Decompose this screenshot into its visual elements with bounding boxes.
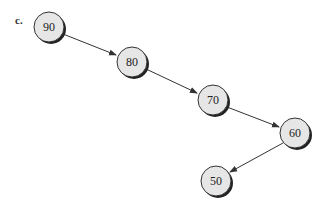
- tree-diagram: c. 90 80 70 60 50: [0, 0, 335, 209]
- edge-80-70: [146, 69, 197, 93]
- node-value: 90: [43, 20, 55, 34]
- node-value: 70: [207, 93, 219, 107]
- node-value: 80: [126, 55, 138, 69]
- node-50: 50: [201, 166, 233, 198]
- diagram-label: c.: [15, 14, 23, 26]
- edge-60-50: [230, 143, 283, 172]
- node-value: 50: [210, 174, 222, 188]
- edge-90-80: [63, 34, 116, 55]
- edges: [63, 34, 283, 172]
- node-60: 60: [280, 118, 312, 150]
- node-70: 70: [198, 85, 230, 117]
- node-80: 80: [117, 47, 149, 79]
- node-90: 90: [34, 12, 66, 44]
- node-value: 60: [289, 126, 301, 140]
- edge-70-60: [227, 107, 279, 127]
